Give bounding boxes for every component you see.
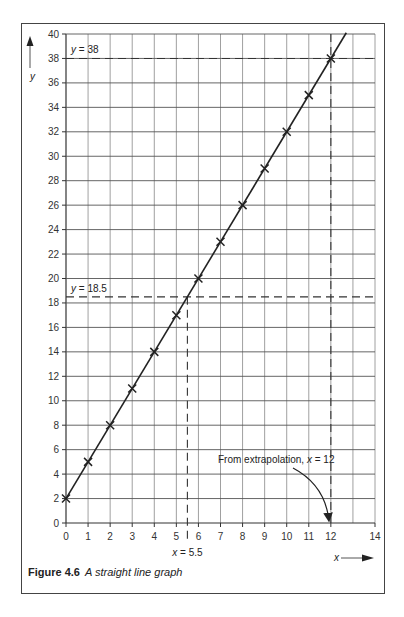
y-tick-label: 40 bbox=[48, 29, 60, 40]
label-value: = 18.5 bbox=[76, 283, 107, 294]
y-tick-label: 36 bbox=[48, 77, 60, 88]
x-tick-label: 14 bbox=[369, 531, 381, 542]
y-tick-label: 14 bbox=[48, 346, 60, 357]
y-tick-label: 16 bbox=[48, 322, 60, 333]
x-axis-arrowhead-icon bbox=[362, 555, 374, 562]
y-tick-label: 30 bbox=[48, 151, 60, 162]
y-axis-arrowhead-icon bbox=[27, 36, 34, 46]
x-tick-label: 6 bbox=[196, 531, 202, 542]
y-tick-label: 26 bbox=[48, 200, 60, 211]
y-tick-label: 38 bbox=[48, 53, 60, 64]
y-tick-label: 18 bbox=[48, 297, 60, 308]
y-tick-label: 32 bbox=[48, 126, 60, 137]
y-tick-label: 4 bbox=[53, 469, 59, 480]
x-tick-label: 12 bbox=[325, 531, 337, 542]
x-tick-label: 3 bbox=[129, 531, 135, 542]
series-line bbox=[66, 33, 346, 499]
label-value: = 38 bbox=[76, 44, 99, 55]
reference-line-label: x = 5.5 bbox=[171, 547, 203, 558]
annotation-text: From extrapolation, x = 12 bbox=[218, 454, 335, 465]
y-tick-label: 10 bbox=[48, 395, 60, 406]
grid bbox=[66, 34, 375, 523]
y-tick-label: 28 bbox=[48, 175, 60, 186]
y-tick-label: 12 bbox=[48, 371, 60, 382]
y-tick-label: 2 bbox=[53, 493, 59, 504]
annotation-suffix: = 12 bbox=[312, 454, 335, 465]
caption-number: Figure 4.6 bbox=[28, 566, 80, 578]
reference-line-label: y = 38 bbox=[70, 44, 99, 55]
x-tick-label: 10 bbox=[281, 531, 293, 542]
x-tick-label: 5 bbox=[174, 531, 180, 542]
y-tick-label: 20 bbox=[48, 273, 60, 284]
reference-line-label: y = 18.5 bbox=[70, 283, 107, 294]
x-axis-label: x bbox=[333, 552, 340, 563]
y-tick-label: 34 bbox=[48, 102, 60, 113]
y-tick-label: 22 bbox=[48, 249, 60, 260]
x-tick-label: 11 bbox=[304, 531, 315, 542]
x-tick-label: 4 bbox=[152, 531, 158, 542]
y-tick-label: 0 bbox=[53, 518, 59, 529]
annotation-prefix: From extrapolation, bbox=[218, 454, 307, 465]
figure-caption: Figure 4.6A straight line graph bbox=[28, 566, 182, 578]
series bbox=[62, 33, 346, 503]
x-tick-label: 8 bbox=[240, 531, 246, 542]
x-tick-label: 2 bbox=[107, 531, 113, 542]
y-axis-label: y bbox=[29, 71, 36, 82]
y-tick-label: 6 bbox=[53, 444, 59, 455]
caption-text: A straight line graph bbox=[85, 566, 182, 578]
chart: 0246810121416182022242628303234363840012… bbox=[0, 0, 404, 617]
x-tick-label: 1 bbox=[85, 531, 91, 542]
x-tick-label: 9 bbox=[262, 531, 268, 542]
y-tick-label: 24 bbox=[48, 224, 60, 235]
x-tick-label: 0 bbox=[63, 531, 69, 542]
label-value: = 5.5 bbox=[177, 547, 203, 558]
y-tick-label: 8 bbox=[53, 420, 59, 431]
labels: From extrapolation, x = 12yx bbox=[27, 36, 375, 563]
x-tick-label: 7 bbox=[218, 531, 224, 542]
annotation-arrow bbox=[293, 468, 329, 520]
